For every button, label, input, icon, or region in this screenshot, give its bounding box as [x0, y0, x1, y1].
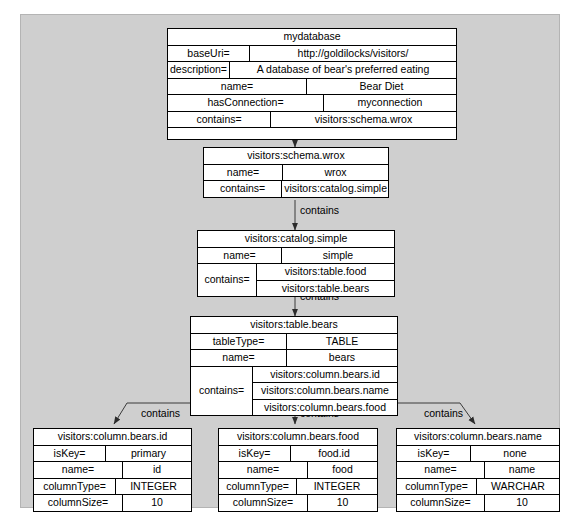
row-key: name=: [198, 248, 282, 264]
row-value: Bear Diet: [307, 79, 456, 95]
row-value: primary: [106, 446, 191, 462]
row-value: bears: [287, 350, 397, 366]
list-item: visitors:column.bears.food: [253, 400, 397, 416]
table-row-multi: contains= visitors:table.food visitors:t…: [198, 264, 394, 296]
row-value: wrox: [283, 165, 388, 181]
row-key: name=: [204, 165, 283, 181]
row-key: columnType=: [34, 479, 116, 495]
row-value: simple: [282, 248, 394, 264]
node-column-bears-id[interactable]: visitors:column.bears.id isKey= primary …: [33, 428, 192, 512]
table-row: columnType= INTEGER: [34, 479, 191, 496]
row-value-list: visitors:column.bears.id visitors:column…: [253, 367, 397, 416]
row-value: INTEGER: [297, 479, 377, 495]
node-catalog-simple[interactable]: visitors:catalog.simple name= simple con…: [197, 230, 395, 297]
table-row: name= simple: [198, 248, 394, 265]
row-key: contains=: [168, 112, 271, 128]
row-key: name=: [219, 462, 308, 478]
row-value: 10: [485, 495, 559, 511]
row-value: A database of bear's preferred eating: [230, 62, 456, 78]
node-title: visitors:column.bears.name: [397, 429, 559, 446]
table-row: columnSize= 10: [219, 495, 377, 511]
row-key: name=: [397, 462, 485, 478]
row-key: columnSize=: [397, 495, 485, 511]
row-value: TABLE: [287, 334, 397, 350]
row-key: isKey=: [34, 446, 106, 462]
row-key: columnType=: [219, 479, 297, 495]
table-row-multi: contains= visitors:column.bears.id visit…: [191, 367, 397, 416]
row-key: columnType=: [397, 479, 477, 495]
table-row: name= wrox: [204, 165, 388, 182]
table-row: name= name: [397, 462, 559, 479]
row-value: food.id: [291, 446, 377, 462]
list-item: visitors:column.bears.name: [253, 383, 397, 400]
node-table-bears[interactable]: visitors:table.bears tableType= TABLE na…: [190, 316, 398, 416]
table-row: columnSize= 10: [397, 495, 559, 511]
row-key: hasConnection=: [168, 95, 324, 111]
table-row: columnType= INTEGER: [219, 479, 377, 496]
node-title: visitors:schema.wrox: [204, 148, 388, 165]
row-key: isKey=: [219, 446, 291, 462]
row-key: columnSize=: [219, 495, 308, 511]
row-value: myconnection: [324, 95, 456, 111]
table-row: name= bears: [191, 350, 397, 367]
row-value: name: [485, 462, 559, 478]
table-row: isKey= none: [397, 446, 559, 463]
row-key: isKey=: [397, 446, 471, 462]
node-title: visitors:column.bears.id: [34, 429, 191, 446]
table-row: baseUri= http://goldilocks/visitors/: [168, 46, 456, 63]
list-item: visitors:table.food: [257, 264, 394, 281]
row-key: tableType=: [191, 334, 287, 350]
table-row: description= A database of bear's prefer…: [168, 62, 456, 79]
table-row: columnType= WARCHAR: [397, 479, 559, 496]
row-value: 10: [308, 495, 377, 511]
table-row: contains= visitors:catalog.simple: [204, 181, 388, 197]
row-value: INTEGER: [116, 479, 191, 495]
row-key: name=: [34, 462, 123, 478]
node-column-bears-food[interactable]: visitors:column.bears.food isKey= food.i…: [218, 428, 378, 512]
edge-label-schema-to-catalog: contains: [300, 205, 339, 216]
table-row: tableType= TABLE: [191, 334, 397, 351]
table-row: name= food: [219, 462, 377, 479]
row-key: contains=: [198, 264, 257, 296]
row-value: 10: [123, 495, 191, 511]
row-value: food: [308, 462, 377, 478]
table-row: name= Bear Diet: [168, 79, 456, 96]
table-row: name= id: [34, 462, 191, 479]
node-title: visitors:catalog.simple: [198, 231, 394, 248]
row-value: id: [123, 462, 191, 478]
edge-label-table-to-column-id: contains: [141, 408, 180, 419]
row-key: contains=: [191, 367, 253, 416]
row-value: http://goldilocks/visitors/: [250, 46, 456, 62]
row-value: visitors:schema.wrox: [271, 112, 456, 128]
node-title: mydatabase: [168, 29, 456, 46]
node-column-bears-name[interactable]: visitors:column.bears.name isKey= none n…: [396, 428, 560, 512]
node-schema-wrox[interactable]: visitors:schema.wrox name= wrox contains…: [203, 147, 389, 198]
row-key: columnSize=: [34, 495, 123, 511]
row-key: name=: [191, 350, 287, 366]
row-value: WARCHAR: [477, 479, 559, 495]
table-row: isKey= food.id: [219, 446, 377, 463]
row-value: [168, 128, 456, 139]
row-key: baseUri=: [168, 46, 250, 62]
row-value: none: [471, 446, 559, 462]
table-row: isKey= primary: [34, 446, 191, 463]
diagram-canvas: contains contains contains contains cont…: [0, 0, 582, 522]
row-key: contains=: [204, 181, 282, 197]
table-row: hasConnection= myconnection: [168, 95, 456, 112]
table-row: contains= visitors:schema.wrox: [168, 112, 456, 129]
row-value-list: visitors:table.food visitors:table.bears: [257, 264, 394, 296]
node-mydatabase[interactable]: mydatabase baseUri= http://goldilocks/vi…: [167, 28, 457, 140]
row-value: visitors:catalog.simple: [282, 181, 388, 197]
edge-label-table-to-column-name: contains: [424, 408, 463, 419]
list-item: visitors:column.bears.id: [253, 367, 397, 384]
list-item: visitors:table.bears: [257, 281, 394, 297]
node-title: visitors:table.bears: [191, 317, 397, 334]
row-key: name=: [168, 79, 307, 95]
row-key: description=: [168, 62, 230, 78]
table-row-empty: [168, 128, 456, 139]
node-title: visitors:column.bears.food: [219, 429, 377, 446]
table-row: columnSize= 10: [34, 495, 191, 511]
